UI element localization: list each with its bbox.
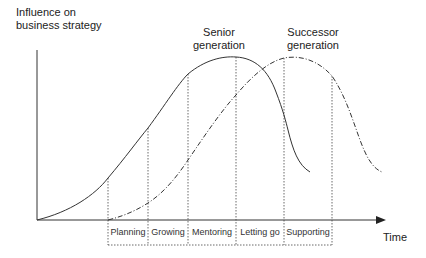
- succession-diagram: Influence on business strategy Senior ge…: [0, 0, 426, 258]
- senior-label-line1: Senior: [180, 26, 258, 39]
- x-axis-label: Time: [383, 231, 407, 244]
- senior-generation-label: Senior generation: [180, 26, 258, 52]
- phase-mentoring: Mentoring: [188, 226, 236, 238]
- phase-supporting: Supporting: [284, 226, 332, 238]
- successor-label-line2: generation: [270, 39, 356, 52]
- phase-growing: Growing: [148, 226, 188, 238]
- phase-letting-go: Letting go: [236, 226, 284, 238]
- senior-generation-curve: [37, 57, 310, 220]
- successor-generation-curve: [108, 57, 382, 220]
- phase-box: [108, 57, 332, 245]
- phase-planning: Planning: [108, 226, 148, 238]
- y-axis-label: Influence on business strategy: [16, 6, 102, 32]
- y-axis-label-line2: business strategy: [16, 19, 102, 32]
- senior-label-line2: generation: [180, 39, 258, 52]
- y-axis-label-line1: Influence on: [16, 6, 102, 19]
- successor-generation-label: Successor generation: [270, 26, 356, 52]
- successor-label-line1: Successor: [270, 26, 356, 39]
- x-axis-arrow-icon: [376, 216, 386, 224]
